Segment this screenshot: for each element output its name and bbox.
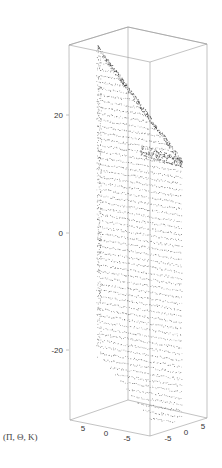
z-tick-label: 20 [54, 111, 63, 120]
bounding-box-front [69, 27, 207, 436]
x-tick-label: 0 [104, 429, 109, 438]
x-tick-label: 5 [81, 424, 86, 433]
x-axis: 5 0 -5 [81, 424, 131, 443]
point-cloud [96, 45, 182, 423]
y-tick-label: -5 [164, 434, 172, 443]
z-tick-label: -20 [51, 346, 63, 355]
bounding-box [69, 27, 207, 420]
3d-scatter-plot: 20 0 -20 5 0 -5 -5 0 5 (Π, Θ, K) [0, 0, 222, 468]
z-axis: 20 0 -20 [51, 111, 69, 355]
z-tick-label: 0 [59, 229, 64, 238]
y-tick-label: 5 [201, 422, 206, 431]
x-tick-label: -5 [123, 434, 131, 443]
variables-label: (Π, Θ, K) [3, 432, 38, 442]
y-tick-label: 0 [184, 428, 189, 437]
